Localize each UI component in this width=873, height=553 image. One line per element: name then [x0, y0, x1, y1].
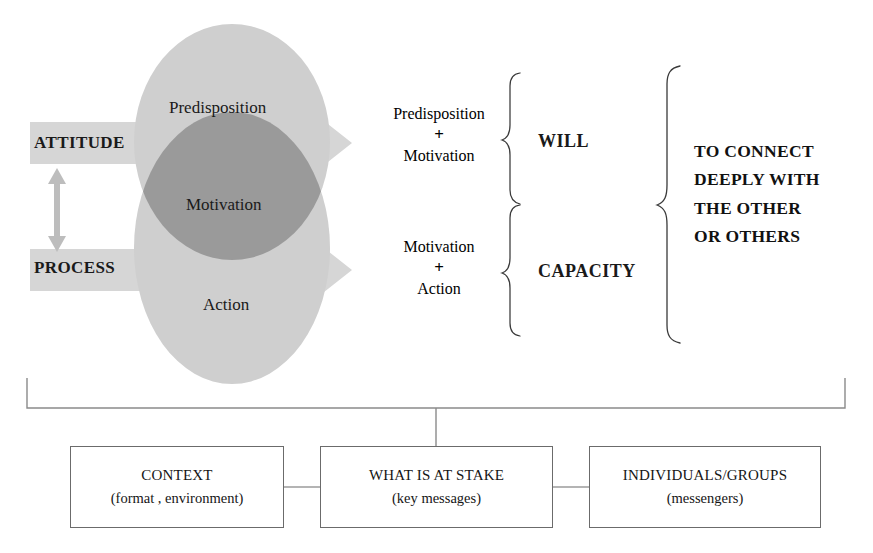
capacity-operator: + — [434, 258, 444, 278]
foundation-box-individuals-subtitle: (messengers) — [667, 490, 744, 507]
capacity-term-1: Motivation — [403, 238, 474, 256]
will-operator: + — [434, 125, 444, 145]
outcome-line-2: DEEPLY WITH — [694, 165, 820, 193]
diagram-canvas: ATTITUDE PROCESS Predisposition Motivati… — [0, 0, 873, 553]
process-label: PROCESS — [34, 259, 115, 276]
foundation-box-context[interactable]: CONTEXT (format , environment) — [70, 446, 284, 528]
will-result-label: WILL — [538, 132, 589, 150]
foundation-box-individuals[interactable]: INDIVIDUALS/GROUPS (messengers) — [589, 446, 821, 528]
foundation-box-stake-subtitle: (key messages) — [392, 490, 481, 507]
outcome-brace-icon — [657, 66, 680, 343]
outcome-line-3: THE OTHER — [694, 194, 820, 222]
outcome-line-4: OR OTHERS — [694, 222, 820, 250]
capacity-term-2: Action — [417, 280, 461, 298]
action-label: Action — [203, 296, 249, 313]
attitude-label: ATTITUDE — [34, 134, 125, 151]
double-headed-vertical-arrow-icon — [48, 168, 66, 252]
will-brace-icon — [502, 73, 520, 204]
foundation-box-stake-title: WHAT IS AT STAKE — [369, 467, 504, 484]
outcome-text-block: TO CONNECT DEEPLY WITH THE OTHER OR OTHE… — [694, 137, 820, 250]
foundation-bracket-icon — [27, 378, 845, 447]
foundation-box-stake[interactable]: WHAT IS AT STAKE (key messages) — [320, 446, 553, 528]
will-term-1: Predisposition — [393, 105, 485, 123]
foundation-box-individuals-title: INDIVIDUALS/GROUPS — [623, 467, 787, 484]
foundation-box-context-title: CONTEXT — [141, 467, 212, 484]
motivation-label: Motivation — [186, 196, 262, 213]
will-equation: Predisposition + Motivation — [377, 103, 501, 167]
foundation-box-context-subtitle: (format , environment) — [111, 490, 243, 507]
capacity-brace-icon — [502, 205, 520, 336]
outcome-line-1: TO CONNECT — [694, 137, 820, 165]
capacity-equation: Motivation + Action — [377, 236, 501, 300]
capacity-result-label: CAPACITY — [538, 262, 636, 280]
will-term-2: Motivation — [403, 147, 474, 165]
predisposition-label: Predisposition — [169, 99, 266, 116]
